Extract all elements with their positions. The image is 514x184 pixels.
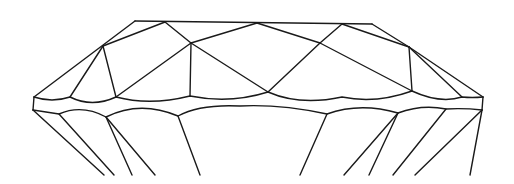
facet-edge [70, 46, 103, 97]
facet-edge [268, 43, 320, 92]
girdle-curve [34, 91, 483, 103]
facet-edge [342, 24, 409, 47]
facet-edge [59, 114, 114, 175]
facet-edge [409, 47, 462, 97]
gem-facet-drawing [0, 0, 514, 184]
facet-edge [33, 110, 104, 175]
facet-edge [300, 114, 327, 175]
facet-edge [103, 46, 116, 97]
facet-edge [191, 43, 268, 92]
facet-edge [106, 117, 132, 175]
facet-edge [369, 113, 398, 175]
facet-edge [34, 21, 135, 97]
facet-edge [393, 109, 446, 175]
facet-edge [190, 43, 191, 96]
gemstone-diagram [0, 0, 514, 184]
facet-edge [320, 24, 342, 43]
facet-edge [103, 22, 165, 46]
facet-edge [409, 47, 412, 91]
facet-edge [178, 116, 200, 175]
facet-edge [106, 117, 155, 175]
facet-edge [482, 97, 483, 110]
facet-edge [191, 23, 257, 43]
facet-edge [320, 43, 412, 91]
facet-edge [33, 97, 34, 110]
facet-edge [165, 22, 191, 43]
facet-edge [116, 43, 191, 97]
facet-edge [344, 113, 398, 175]
facet-edge [409, 47, 483, 97]
girdle-curve [33, 106, 482, 117]
facet-edge [257, 23, 320, 43]
